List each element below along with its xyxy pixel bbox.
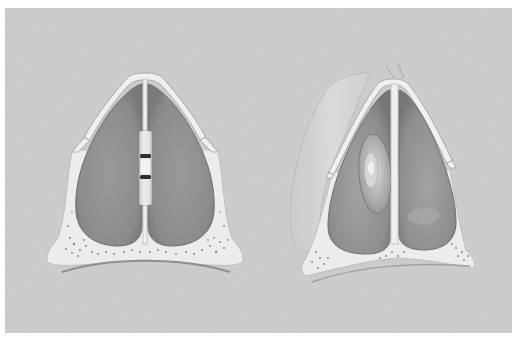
septal-splint — [139, 131, 152, 205]
right-nasal-septum — [391, 84, 398, 244]
nasal-cross-section-illustration — [0, 0, 521, 342]
